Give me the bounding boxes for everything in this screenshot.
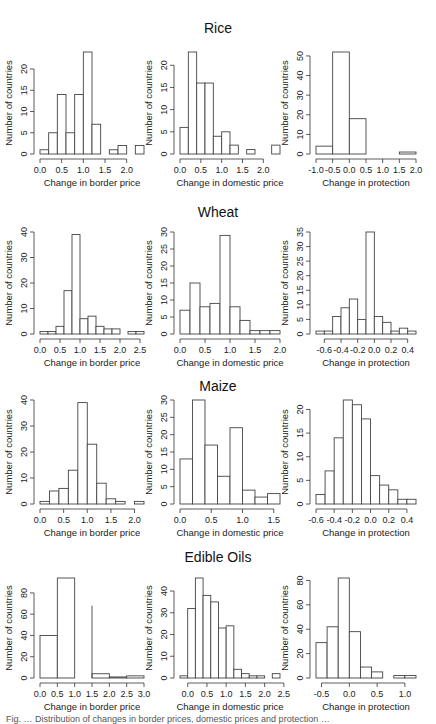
histogram-bar [222,132,230,154]
histogram-bar [398,499,407,504]
histogram-bar [218,476,231,504]
histogram-bar [64,291,72,334]
histogram-bar [49,133,58,154]
y-tick-label: 15 [295,428,305,438]
histogram-bar [109,150,118,154]
histogram-bar [333,52,350,154]
histogram-bar [83,52,92,154]
histogram-bar [334,438,343,504]
histogram-bar [180,127,188,154]
histogram-bar [255,497,268,504]
x-tick-label: -0.4 [333,345,349,355]
x-tick-label: 2.0 [128,515,141,525]
histogram-bar [75,95,84,155]
histogram-bar [407,499,416,504]
y-tick-label: 15 [295,285,305,295]
histogram-bar [230,428,243,504]
y-tick-label: 40 [159,586,169,596]
histogram-bar [316,146,333,154]
y-tick-label: 20 [295,649,305,659]
histogram-bar [92,674,109,678]
histogram-bar [366,232,374,334]
histogram-bar [333,317,341,334]
histogram-wheat-change-in-protection: 05101520253035Number of countries-0.6-0.… [276,228,426,380]
histogram-bar [220,235,230,334]
histogram-bar [243,490,256,504]
y-tick-label: 10 [19,303,29,313]
y-axis-label: Number of countries [143,240,154,326]
y-tick-label: 35 [295,227,305,237]
y-tick-label: 25 [159,244,169,254]
y-tick-label: 40 [19,395,29,405]
x-axis-label: Change in border price [44,357,141,368]
histogram-bar [358,319,366,334]
x-tick-label: -0.2 [345,515,361,525]
histogram-bar [257,676,265,678]
histogram-bar [325,471,334,504]
x-tick-label: 1.5 [249,345,262,355]
y-tick-label: 0 [19,151,29,156]
y-tick-label: 0 [295,151,305,156]
x-tick-label: 2.0 [114,345,127,355]
y-tick-label: 20 [159,430,169,440]
histogram-edible-oils-change-in-border-price: 020406080Number of countries0.00.51.01.5… [0,574,154,724]
y-axis-label: Number of countries [143,60,154,146]
x-tick-label: 0.4 [401,515,414,525]
x-tick-label: 1.5 [236,165,249,175]
histogram-rice-change-in-domestic-price: 05101520Number of countries0.00.51.01.52… [140,48,290,200]
histogram-bar [57,578,74,678]
x-tick-label: 0.0 [34,689,47,699]
histogram-bar [188,608,196,678]
x-axis-label: Change in protection [322,357,410,368]
histogram-bar [352,405,361,504]
histogram-bar [349,119,366,154]
x-tick-label: -0.5 [325,165,341,175]
y-tick-label: 25 [159,412,169,422]
x-tick-label: 0.0 [174,515,187,525]
y-tick-label: 5 [295,317,305,322]
histogram-bar [260,331,270,334]
row-title-maize: Maize [0,378,436,394]
y-axis-label: Number of countries [3,409,14,495]
histogram-bar [205,83,213,154]
y-tick-label: 0 [19,501,29,506]
y-tick-label: 60 [295,600,305,610]
histogram-bar [316,331,324,334]
x-tick-label: 1.5 [86,689,99,699]
y-tick-label: 20 [19,278,29,288]
histogram-bar [316,495,325,504]
histogram-bar [234,669,242,678]
histogram-bar [180,459,193,504]
histogram-bar [97,483,106,504]
y-tick-label: 40 [19,227,29,237]
y-tick-label: 60 [19,609,29,619]
histogram-bar [240,320,250,334]
x-tick-label: 0.5 [360,165,373,175]
y-axis-label: Number of countries [279,585,290,671]
histogram-bar [48,331,56,334]
y-tick-label: 0 [295,331,305,336]
histogram-bar [405,676,416,678]
y-tick-label: 10 [159,651,169,661]
x-tick-label: 1.0 [68,689,81,699]
x-tick-label: 0.0 [364,515,377,525]
y-axis-label: Number of countries [3,60,14,146]
histogram-bar [408,331,416,334]
x-tick-label: 1.0 [81,515,94,525]
x-tick-label: 1.5 [239,689,252,699]
x-tick-label: 0.5 [57,515,70,525]
y-tick-label: 30 [159,227,169,237]
histogram-bar [88,316,96,334]
histogram-bar [96,326,104,334]
y-tick-label: 40 [295,624,305,634]
histogram-bar [87,444,96,504]
histogram-bar [349,632,360,678]
histogram-bar [203,595,211,678]
histogram-bar [40,635,57,678]
x-tick-label: 1.0 [224,345,237,355]
y-tick-label: 20 [19,652,29,662]
histogram-bar [188,52,196,154]
y-tick-label: 30 [19,252,29,262]
histogram-bar [250,331,260,334]
y-axis-label: Number of countries [3,240,14,326]
